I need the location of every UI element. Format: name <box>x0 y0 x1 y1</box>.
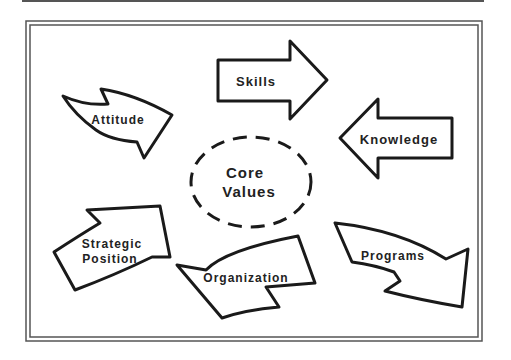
diagram-canvas: Skills Knowledge Attitude Core Values St… <box>0 0 511 360</box>
skills-label: Skills <box>236 74 276 89</box>
dashed-ellipse <box>191 137 311 227</box>
knowledge-arrow: Knowledge <box>340 99 452 178</box>
organization-label: Organization <box>203 271 288 285</box>
strategic-position-arrow: Strategic Position <box>54 206 170 290</box>
strategic-label: Strategic <box>82 237 142 251</box>
core-values-line1: Core <box>226 164 264 181</box>
position-label: Position <box>82 252 137 266</box>
skills-arrow: Skills <box>218 41 327 119</box>
programs-arrow: Programs <box>335 223 468 307</box>
core-values-line2: Values <box>222 183 276 200</box>
knowledge-label: Knowledge <box>360 132 438 147</box>
core-values-node: Core Values <box>191 137 311 227</box>
programs-label: Programs <box>361 249 425 263</box>
attitude-label: Attitude <box>91 113 144 127</box>
organization-arrow: Organization <box>177 236 315 318</box>
curved-arrow-icon <box>335 223 468 307</box>
attitude-arrow: Attitude <box>63 89 172 158</box>
